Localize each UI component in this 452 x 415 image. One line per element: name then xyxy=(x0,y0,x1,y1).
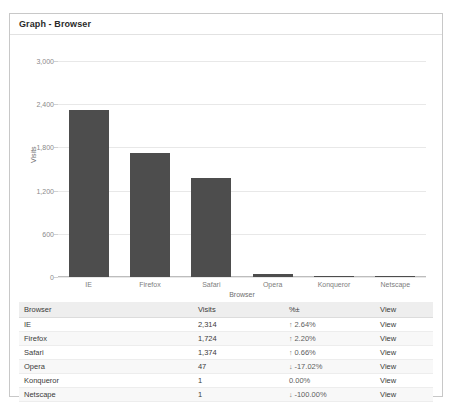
view-link[interactable]: View xyxy=(380,334,396,343)
x-axis-title: Browser xyxy=(58,291,426,298)
percent-value: -100.00% xyxy=(294,390,326,399)
table-row: IE2,314↑2.64%View xyxy=(19,317,433,331)
x-tick-label-konqueror: Konqueror xyxy=(303,281,364,288)
x-tick-label-ie: IE xyxy=(58,281,119,288)
x-tick-label-netscape: Netscape xyxy=(365,281,426,288)
bar-opera[interactable] xyxy=(253,274,293,277)
cell-browser: Konqueror xyxy=(19,373,193,387)
cell-percent-change: ↑0.66% xyxy=(284,345,375,359)
cell-percent-change: 0.00% xyxy=(284,373,375,387)
cell-percent-change: ↑2.64% xyxy=(284,317,375,331)
bar-slot xyxy=(181,61,242,277)
cell-view: View xyxy=(375,331,433,345)
cell-browser: Opera xyxy=(19,359,193,373)
table-row: Firefox1,724↑2.20%View xyxy=(19,331,433,345)
y-tick-label: 1,200 xyxy=(36,187,54,194)
cell-visits: 2,314 xyxy=(193,317,284,331)
cell-visits: 47 xyxy=(193,359,284,373)
panel-title: Graph - Browser xyxy=(10,14,442,35)
browser-table: Browser Visits %± View IE2,314↑2.64%View… xyxy=(19,302,433,402)
column-header-visits[interactable]: Visits xyxy=(193,302,284,317)
column-header-browser[interactable]: Browser xyxy=(19,302,193,317)
cell-percent-change: ↓-100.00% xyxy=(284,387,375,401)
y-tick-mark xyxy=(54,277,58,278)
browser-table-wrapper: Browser Visits %± View IE2,314↑2.64%View… xyxy=(19,302,433,380)
graph-panel: Graph - Browser Visits 06001,2001,8002,4… xyxy=(9,13,443,397)
bar-slot xyxy=(303,61,364,277)
cell-view: View xyxy=(375,373,433,387)
bar-ie[interactable] xyxy=(69,110,109,277)
cell-visits: 1 xyxy=(193,387,284,401)
x-tick-label-firefox: Firefox xyxy=(119,281,180,288)
view-link[interactable]: View xyxy=(380,320,396,329)
bar-slot xyxy=(58,61,119,277)
view-link[interactable]: View xyxy=(380,348,396,357)
page-root: Graph - Browser Visits 06001,2001,8002,4… xyxy=(0,0,452,415)
table-row: Netscape1↓-100.00%View xyxy=(19,387,433,401)
column-header-percent[interactable]: %± xyxy=(284,302,375,317)
bar-chart: Visits 06001,2001,8002,4003,000 IEFirefo… xyxy=(10,35,442,301)
cell-browser: Netscape xyxy=(19,387,193,401)
x-axis-labels: IEFirefoxSafariOperaKonquerorNetscape xyxy=(58,281,426,288)
cell-browser: Firefox xyxy=(19,331,193,345)
y-tick-label: 2,400 xyxy=(36,101,54,108)
table-row: Opera47↓-17.02%View xyxy=(19,359,433,373)
cell-percent-change: ↑2.20% xyxy=(284,331,375,345)
percent-value: 0.66% xyxy=(294,348,315,357)
column-header-view: View xyxy=(375,302,433,317)
view-link[interactable]: View xyxy=(380,376,396,385)
cell-view: View xyxy=(375,387,433,401)
y-tick-label: 0 xyxy=(50,274,54,281)
bar-slot xyxy=(242,61,303,277)
view-link[interactable]: View xyxy=(380,362,396,371)
y-tick-label: 3,000 xyxy=(36,58,54,65)
view-link[interactable]: View xyxy=(380,390,396,399)
y-tick-label: 600 xyxy=(42,230,54,237)
bar-netscape[interactable] xyxy=(375,276,415,277)
bar-slot xyxy=(365,61,426,277)
bar-safari[interactable] xyxy=(191,178,231,277)
bar-series xyxy=(58,61,426,277)
y-tick-label: 1,800 xyxy=(36,144,54,151)
cell-browser: Safari xyxy=(19,345,193,359)
percent-value: 2.64% xyxy=(294,320,315,329)
cell-view: View xyxy=(375,359,433,373)
gridline xyxy=(58,277,426,278)
cell-browser: IE xyxy=(19,317,193,331)
cell-visits: 1,724 xyxy=(193,331,284,345)
percent-value: 2.20% xyxy=(294,334,315,343)
x-tick-label-safari: Safari xyxy=(181,281,242,288)
cell-view: View xyxy=(375,317,433,331)
percent-value: 0.00% xyxy=(289,376,310,385)
percent-value: -17.02% xyxy=(294,362,322,371)
bar-firefox[interactable] xyxy=(130,153,170,277)
bar-slot xyxy=(119,61,180,277)
plot-area: 06001,2001,8002,4003,000 xyxy=(58,61,426,277)
table-row: Safari1,374↑0.66%View xyxy=(19,345,433,359)
cell-view: View xyxy=(375,345,433,359)
cell-visits: 1,374 xyxy=(193,345,284,359)
table-header-row: Browser Visits %± View xyxy=(19,302,433,317)
cell-visits: 1 xyxy=(193,373,284,387)
bar-konqueror[interactable] xyxy=(314,276,354,277)
table-row: Konqueror10.00%View xyxy=(19,373,433,387)
x-tick-label-opera: Opera xyxy=(242,281,303,288)
cell-percent-change: ↓-17.02% xyxy=(284,359,375,373)
